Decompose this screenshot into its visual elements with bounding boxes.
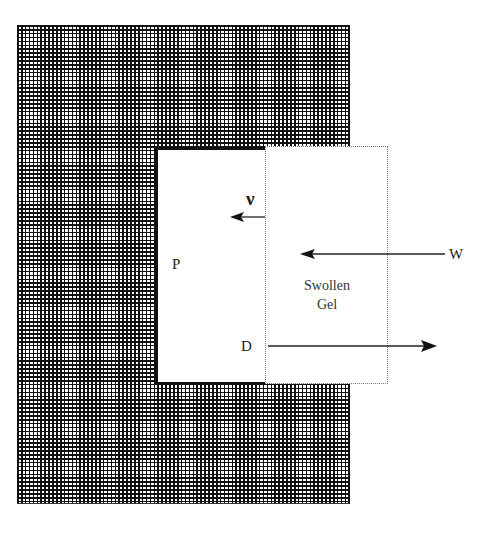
nu-label: ν <box>246 191 255 207</box>
swollen-gel-label: Swollen Gel <box>296 276 358 314</box>
swollen-gel-region <box>265 146 388 384</box>
diagram-canvas: ν W P Swollen Gel D <box>0 0 482 539</box>
w-label: W <box>449 246 463 262</box>
gel-label-line2: Gel <box>296 295 358 314</box>
p-label: P <box>172 256 180 272</box>
d-label: D <box>241 338 252 354</box>
gel-label-line1: Swollen <box>296 276 358 295</box>
